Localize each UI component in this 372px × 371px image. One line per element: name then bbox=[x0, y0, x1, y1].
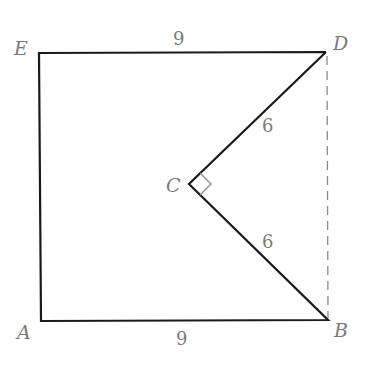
right-angle-marker bbox=[200, 173, 211, 195]
point-label-e: E bbox=[13, 37, 28, 59]
polygon-outline bbox=[39, 52, 328, 321]
geometry-diagram: E D C A B 9 9 6 6 bbox=[0, 0, 372, 371]
length-label-ed: 9 bbox=[173, 28, 184, 49]
dashed-segment-db bbox=[327, 56, 328, 318]
point-label-a: A bbox=[15, 321, 31, 343]
point-label-b: B bbox=[333, 319, 348, 341]
length-label-cd: 6 bbox=[262, 115, 273, 136]
point-label-d: D bbox=[332, 32, 348, 54]
length-label-cb: 6 bbox=[262, 231, 273, 252]
point-label-c: C bbox=[166, 174, 181, 196]
length-label-ab: 9 bbox=[176, 328, 187, 349]
